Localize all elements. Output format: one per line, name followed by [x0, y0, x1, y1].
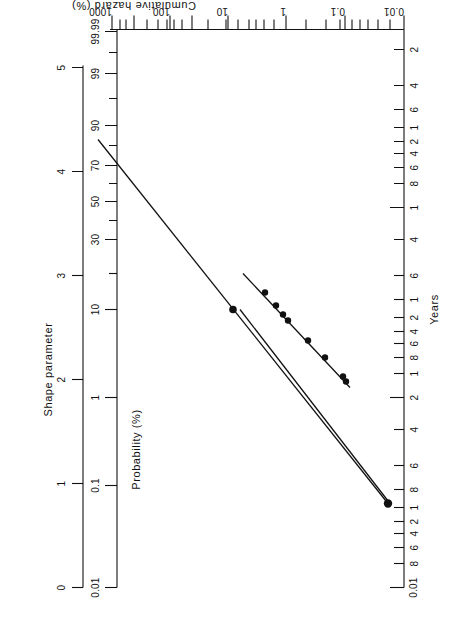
years-tick-1: 8	[409, 560, 420, 566]
probability-tick-99-99: 99.99	[90, 18, 101, 44]
years-tick-19: 8	[409, 180, 420, 186]
probability-tick-1: 1	[90, 394, 101, 400]
years-tick-13: 4	[409, 328, 420, 334]
years-axis-title: Years	[428, 294, 440, 325]
data-point	[305, 337, 311, 343]
years-tick-11: 8	[409, 354, 420, 360]
hazard-tick-0-01: 0.01	[384, 6, 404, 17]
estimation-line-lower-ray	[240, 309, 390, 503]
figure-page: Shape parameter 0 1 2 3 4 5 Probability …	[0, 0, 454, 625]
weibull-hazard-plot: Shape parameter 0 1 2 3 4 5 Probability …	[0, 0, 454, 625]
years-tick-20: 6	[409, 164, 420, 170]
probability-tick-90: 90	[90, 119, 101, 131]
hazard-tick-10: 10	[216, 6, 228, 17]
probability-tick-30: 30	[90, 233, 101, 245]
years-tick-16: 6	[409, 272, 420, 278]
data-point	[322, 354, 328, 360]
years-tick-4: 2	[409, 518, 420, 524]
shape-tick-3: 3	[56, 272, 67, 278]
shape-tick-5: 5	[56, 64, 67, 70]
years-tick-18: 1	[409, 204, 420, 210]
probability-tick-50: 50	[90, 195, 101, 207]
rotated-figure-stage: Shape parameter 0 1 2 3 4 5 Probability …	[0, 0, 454, 625]
years-tick-7: 6	[409, 462, 420, 468]
shape-parameter-axis	[72, 65, 83, 587]
years-tick-15: 1	[409, 296, 420, 302]
shape-tick-2: 2	[56, 376, 67, 382]
probability-axis-title: Probability (%)	[130, 409, 142, 490]
shape-tick-0: 0	[56, 584, 67, 590]
probability-axis	[105, 29, 117, 587]
hazard-tick-0-1: 0.1	[330, 6, 345, 17]
probability-tick-70: 70	[90, 159, 101, 171]
probability-tick-99: 99	[90, 67, 101, 79]
years-tick-9: 2	[409, 394, 420, 400]
years-tick-26: 2	[409, 46, 420, 52]
hazard-tick-1: 1	[280, 6, 286, 17]
data-point	[280, 311, 286, 317]
hazard-fit-line	[243, 273, 350, 387]
shape-tick-1: 1	[56, 480, 67, 486]
years-tick-14: 2	[409, 314, 420, 320]
data-point	[273, 302, 279, 308]
years-tick-21: 4	[409, 150, 420, 156]
years-tick-10: 1	[409, 370, 420, 376]
data-point	[340, 373, 346, 379]
probability-tick-10: 10	[90, 303, 101, 315]
years-tick-25: 4	[409, 82, 420, 88]
shape-parameter-axis-title: Shape parameter	[42, 322, 54, 416]
years-tick-24: 6	[409, 106, 420, 112]
probability-tick-0-01: 0.01	[90, 577, 101, 597]
hazard-tick-1000: 1000	[89, 6, 112, 17]
years-tick-8: 4	[409, 426, 420, 432]
data-point	[262, 289, 268, 295]
probability-tick-0-1: 0.1	[90, 478, 101, 493]
years-tick-3: 4	[409, 530, 420, 536]
years-tick-12: 6	[409, 340, 420, 346]
plot-canvas	[0, 0, 454, 625]
years-tick-22: 2	[409, 138, 420, 144]
years-tick-6: 8	[409, 486, 420, 492]
years-tick-2: 6	[409, 544, 420, 550]
hazard-data-points	[262, 289, 349, 384]
years-tick-23: 1	[409, 124, 420, 130]
data-point	[285, 317, 291, 323]
shape-tick-4: 4	[56, 168, 67, 174]
hazard-tick-100: 100	[153, 6, 170, 17]
years-tick-0: 0.01	[408, 577, 419, 597]
years-tick-5: 1	[409, 504, 420, 510]
cumulative-hazard-axis	[110, 15, 404, 29]
years-tick-17: 4	[409, 236, 420, 242]
